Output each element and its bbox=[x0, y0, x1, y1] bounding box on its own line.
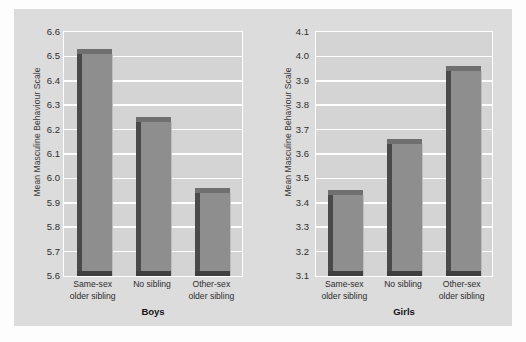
figure-root: Mean Masculine Behaviour Scale 5.65.75.8… bbox=[0, 0, 526, 342]
group-title-boys: Boys bbox=[63, 306, 243, 317]
bar-top-face bbox=[77, 49, 112, 54]
bar-top-face bbox=[136, 117, 171, 122]
gridline bbox=[316, 56, 492, 58]
x-axis-ticks-boys: Same-sexolder siblingNo siblingOther-sex… bbox=[63, 279, 243, 307]
x-tick-label: Other-sexolder sibling bbox=[426, 279, 498, 302]
bar-boys-0 bbox=[82, 49, 112, 276]
bar-boys-2 bbox=[200, 188, 230, 276]
y-tick-label: 5.7 bbox=[47, 245, 60, 256]
bar-front-face bbox=[392, 144, 423, 276]
x-axis-ticks-girls: Same-sexolder siblingNo siblingOther-sex… bbox=[315, 279, 493, 307]
charts-row: Mean Masculine Behaviour Scale 5.65.75.8… bbox=[14, 9, 512, 326]
y-tick-label: 5.9 bbox=[47, 196, 60, 207]
x-tick-line: Other-sex bbox=[426, 279, 498, 291]
bar-girls-1 bbox=[392, 139, 422, 276]
bar-girls-2 bbox=[451, 66, 481, 276]
y-tick-label: 3.5 bbox=[296, 172, 309, 183]
plot-area-boys bbox=[63, 31, 243, 277]
bar-top-face bbox=[387, 139, 422, 144]
bar-base-face bbox=[77, 271, 112, 276]
bar-front-face bbox=[200, 193, 231, 276]
bar-base-face bbox=[195, 271, 230, 276]
y-tick-label: 6.2 bbox=[47, 123, 60, 134]
y-tick-label: 3.7 bbox=[296, 123, 309, 134]
figure-panel: Mean Masculine Behaviour Scale 5.65.75.8… bbox=[14, 9, 512, 326]
bar-base-face bbox=[387, 271, 422, 276]
bar-top-face bbox=[328, 190, 363, 195]
chart-girls: Mean Masculine Behaviour Scale 3.13.23.3… bbox=[263, 9, 512, 326]
y-tick-label: 3.3 bbox=[296, 221, 309, 232]
y-tick-label: 6.3 bbox=[47, 99, 60, 110]
x-tick-line: older sibling bbox=[308, 291, 380, 303]
y-tick-label: 4.1 bbox=[296, 26, 309, 37]
y-tick-label: 6.4 bbox=[47, 74, 60, 85]
y-tick-label: 5.8 bbox=[47, 221, 60, 232]
y-tick-label: 3.4 bbox=[296, 196, 309, 207]
y-tick-label: 3.9 bbox=[296, 74, 309, 85]
bar-base-face bbox=[446, 271, 481, 276]
x-tick-label: Other-sexolder sibling bbox=[175, 279, 247, 302]
y-tick-label: 4.0 bbox=[296, 50, 309, 61]
chart-boys: Mean Masculine Behaviour Scale 5.65.75.8… bbox=[14, 9, 263, 326]
bar-top-face bbox=[446, 66, 481, 71]
x-tick-line: Other-sex bbox=[175, 279, 247, 291]
bar-base-face bbox=[328, 271, 363, 276]
group-title-girls: Girls bbox=[315, 306, 493, 317]
x-tick-line: older sibling bbox=[175, 291, 247, 303]
bar-base-face bbox=[136, 271, 171, 276]
y-tick-label: 3.2 bbox=[296, 245, 309, 256]
y-tick-label: 3.6 bbox=[296, 148, 309, 159]
bar-girls-0 bbox=[333, 190, 363, 276]
y-tick-label: 6.6 bbox=[47, 26, 60, 37]
bar-front-face bbox=[451, 71, 482, 276]
bar-boys-1 bbox=[141, 117, 171, 276]
bar-front-face bbox=[333, 195, 364, 276]
bar-front-face bbox=[82, 54, 113, 276]
y-axis-ticks-boys: 5.65.75.85.96.06.16.26.36.46.56.6 bbox=[34, 31, 60, 277]
y-tick-label: 3.8 bbox=[296, 99, 309, 110]
y-axis-ticks-girls: 3.13.23.33.43.53.63.73.83.94.04.1 bbox=[283, 31, 309, 277]
y-tick-label: 6.0 bbox=[47, 172, 60, 183]
plot-area-girls bbox=[315, 31, 493, 277]
x-tick-line: older sibling bbox=[57, 291, 129, 303]
bar-front-face bbox=[141, 122, 172, 276]
x-tick-line: older sibling bbox=[426, 291, 498, 303]
y-tick-label: 6.1 bbox=[47, 148, 60, 159]
bar-top-face bbox=[195, 188, 230, 193]
y-tick-label: 3.1 bbox=[296, 270, 309, 281]
y-tick-label: 6.5 bbox=[47, 50, 60, 61]
